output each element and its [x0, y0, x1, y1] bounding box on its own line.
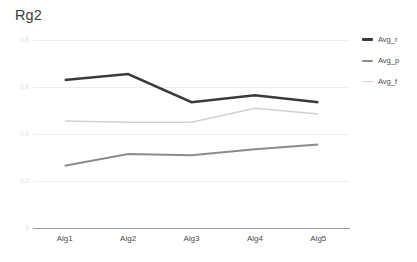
chart-container: Rg2 0.80.60.40.20 Alg1Alg2Alg3Alg4Alg5 A… — [0, 0, 417, 262]
legend-item-avg_p[interactable]: Avg_p — [362, 52, 417, 69]
legend-swatch-icon — [362, 38, 373, 41]
series-line-avg_r — [65, 74, 319, 102]
series-lines-group — [0, 0, 417, 262]
legend-item-avg_r[interactable]: Avg_r — [362, 31, 417, 48]
legend-swatch-icon — [362, 81, 373, 83]
legend-item-avg_f[interactable]: Avg_f — [362, 73, 417, 90]
plot-area: 0.80.60.40.20 Alg1Alg2Alg3Alg4Alg5 — [0, 0, 417, 262]
legend-item-label: Avg_r — [378, 35, 397, 44]
legend-swatch-icon — [362, 60, 373, 62]
series-line-avg_p — [65, 145, 319, 166]
legend-item-label: Avg_f — [378, 77, 397, 86]
series-line-avg_f — [65, 108, 319, 122]
chart-legend: Avg_rAvg_pAvg_f — [362, 31, 417, 94]
legend-item-label: Avg_p — [378, 56, 399, 65]
